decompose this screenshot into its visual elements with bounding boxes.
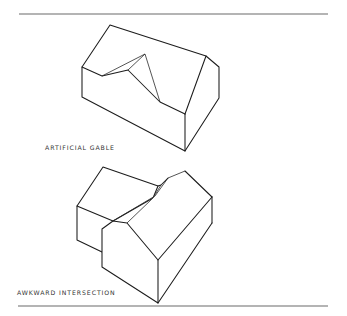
caption-artificial-gable: ARTIFICIAL GABLE [45,144,115,151]
artificial-gable-drawing [82,25,219,151]
caption-awkward-intersection: AWKWARD INTERSECTION [17,289,116,296]
diagram-canvas [0,0,347,316]
awkward-intersection-drawing [77,167,212,303]
